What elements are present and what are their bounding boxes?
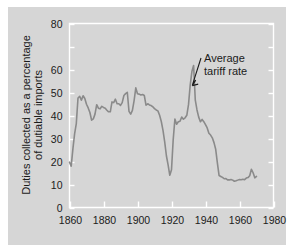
annotation-average-tariff-rate: Average tariff rate [192, 52, 247, 86]
y-axis-tick-labels: 010203040506080 [51, 18, 63, 214]
chart-plot-wrapper: 010203040506080 186018801900192019401960… [0, 0, 294, 252]
x-tick-label-1940: 1940 [195, 214, 219, 226]
annotation-label-line1: Average [204, 52, 245, 64]
x-axis-ticks [71, 202, 275, 208]
y-axis-title-line1: Duties collected as a percentage [20, 35, 32, 195]
annotation-label-line2: tariff rate [204, 65, 247, 77]
x-tick-label-1920: 1920 [161, 214, 185, 226]
y-tick-label-50: 50 [51, 87, 63, 99]
figure-container: 010203040506080 186018801900192019401960… [0, 0, 294, 252]
y-axis-title: Duties collected as a percentage of duti… [20, 35, 44, 195]
tariff-rate-line-chart: 010203040506080 186018801900192019401960… [0, 0, 294, 252]
y-tick-label-20: 20 [51, 156, 63, 168]
x-tick-label-1980: 1980 [263, 214, 287, 226]
y-tick-label-40: 40 [51, 110, 63, 122]
x-tick-label-1900: 1900 [127, 214, 151, 226]
x-tick-label-1880: 1880 [93, 214, 117, 226]
y-tick-label-60: 60 [51, 64, 63, 76]
y-tick-label-80: 80 [51, 18, 63, 30]
data-series-average-tariff-rate [70, 66, 257, 182]
x-tick-label-1860: 1860 [59, 214, 83, 226]
y-tick-label-10: 10 [51, 179, 63, 191]
x-axis-tick-labels: 1860188019001920194019601980 [59, 214, 287, 226]
y-tick-label-0: 0 [57, 202, 63, 214]
x-tick-label-1960: 1960 [229, 214, 253, 226]
y-axis-title-line2: of dutiable imports [32, 70, 44, 160]
y-tick-label-30: 30 [51, 133, 63, 145]
